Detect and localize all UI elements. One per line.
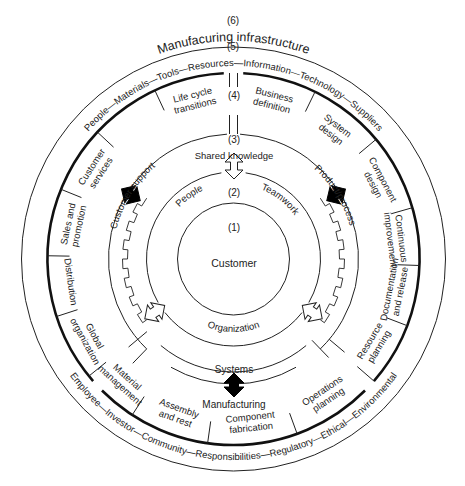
level-3-label: (3) [228,134,240,145]
manufacturing-arrow-icon [224,373,244,397]
sector-divider [61,189,81,197]
customer-core-label: Customer [211,257,257,269]
sector-divider [97,132,113,147]
manufacturing-enterprise-wheel-diagram: (6) (5) (4) (3) (2) (1) Manufacuring inf… [0,0,465,486]
sector-divider [397,265,419,266]
gear-edge-left [123,198,147,323]
sector-divider [305,92,315,112]
sector-divider [359,139,376,153]
sector-divider [57,310,78,317]
systems-label: Systems [215,364,253,375]
product-process-label: Product/process [313,162,359,227]
level-2-label: (2) [228,187,240,198]
sector-sales-and-promotion: Sales andpromotion [58,202,88,248]
level-1-label: (1) [228,222,240,233]
organization-right-arrow-icon [297,297,328,327]
gear-edge-right [320,198,344,323]
organization-left-arrow-icon [139,297,170,327]
organization-left-arrow-icon-shape [139,297,170,327]
manufacturing-label: Manufacturing [202,399,265,410]
infrastructure-title: Manufacuring infrastructure [155,30,311,57]
level-4-label: (4) [228,90,240,101]
organization-label: Organization [206,319,260,334]
level-6-label: (6) [227,15,239,26]
lower-gap-line-left-b [129,332,147,347]
sector-divider [290,413,298,434]
sector-divider [155,90,164,110]
sector-component-fabrication: Componentfabrication [225,409,277,436]
lower-gap-line-left-a [133,349,147,363]
sector-label-line: Distribution [62,258,80,307]
sector-divider [208,421,211,443]
lower-gap-line-right-a [329,339,344,352]
sector-documentation-and-release: Documentationand release [378,257,412,324]
sector-divider [357,367,374,381]
customer-support-label: Customer support [107,159,157,230]
sector-divider [387,318,408,326]
manufacturing-arrow-icon-shape [224,373,244,397]
sector-life-cycle-transitions: Life cycletransitions [170,84,218,116]
sector-system-design: Systemdesign [315,111,354,148]
sector-resource-planning: Resourceplanning [354,320,394,366]
sector-divider [391,208,412,214]
people-label: People [173,182,204,208]
shared-knowledge-label: Shared knowledge [195,150,274,161]
sector-material-management: Materialmanagement [96,354,152,408]
sector-distribution: Distribution [62,258,80,307]
sector-assembly-and-rest: Assemblyand rest [154,396,200,431]
organization-right-arrow-icon-shape [297,297,328,327]
sector-business-definition: Businessdefinition [252,85,295,116]
